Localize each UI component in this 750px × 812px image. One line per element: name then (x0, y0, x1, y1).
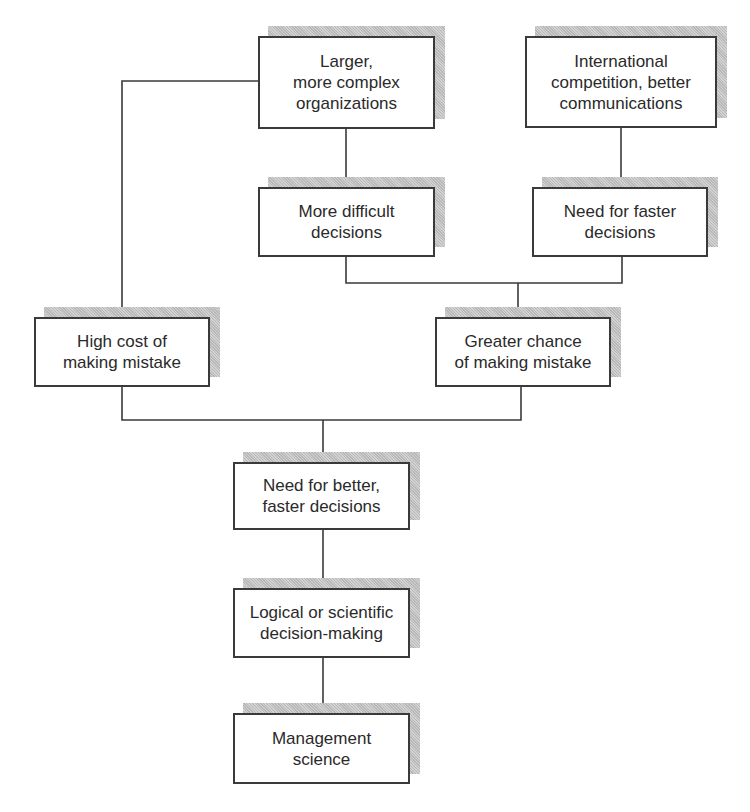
edge-larger-to-high-cost (122, 81, 258, 316)
node-logical-scientific: Logical or scientific decision-making (233, 588, 410, 658)
box: Larger, more complex organizations (258, 36, 435, 129)
node-more-difficult: More difficult decisions (258, 187, 435, 257)
box: Management science (233, 713, 410, 784)
node-management-science: Management science (233, 713, 410, 784)
box: International competition, better commun… (525, 36, 717, 128)
box: High cost of making mistake (34, 317, 210, 387)
box: Greater chance of making mistake (435, 317, 611, 387)
node-label: Logical or scientific decision-making (250, 602, 394, 644)
node-need-better-faster: Need for better, faster decisions (233, 462, 410, 530)
node-need-faster: Need for faster decisions (532, 187, 708, 257)
box: More difficult decisions (258, 187, 435, 257)
node-intl-competition: International competition, better commun… (525, 36, 717, 128)
node-label: Management science (272, 728, 371, 770)
flowchart-canvas: Larger, more complex organizations Inter… (0, 0, 750, 812)
node-label: Greater chance of making mistake (455, 331, 592, 373)
node-label: International competition, better commun… (551, 51, 691, 114)
box: Logical or scientific decision-making (233, 588, 410, 658)
node-label: Larger, more complex organizations (293, 51, 400, 114)
node-greater-chance: Greater chance of making mistake (435, 317, 611, 387)
node-larger-orgs: Larger, more complex organizations (258, 36, 435, 129)
edge-merge-bottom (122, 387, 521, 420)
node-label: More difficult decisions (298, 201, 394, 243)
node-label: High cost of making mistake (63, 331, 181, 373)
node-label: Need for better, faster decisions (262, 475, 380, 517)
box: Need for better, faster decisions (233, 462, 410, 530)
node-label: Need for faster decisions (564, 201, 676, 243)
box: Need for faster decisions (532, 187, 708, 257)
node-high-cost: High cost of making mistake (34, 317, 210, 387)
edge-merge-top (346, 257, 622, 283)
